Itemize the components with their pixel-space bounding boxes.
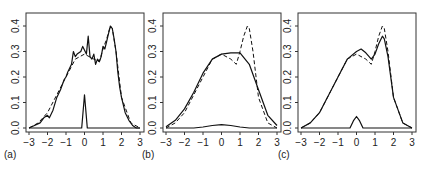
x-tick-label: 2 bbox=[391, 137, 397, 148]
panel-label-c: (c) bbox=[278, 149, 290, 160]
y-tick-label: 0.1 bbox=[147, 95, 158, 109]
y-tick-label: 0.4 bbox=[282, 19, 293, 33]
x-tick-label: −2 bbox=[42, 137, 54, 148]
panel-a: −3−2−101230.00.10.20.30.4 (a) bbox=[0, 0, 145, 172]
x-tick-label: −3 bbox=[23, 137, 35, 148]
x-tick-label: −2 bbox=[179, 137, 191, 148]
y-tick-label: 0.2 bbox=[147, 70, 158, 84]
panel-c: −3−2−101230.00.10.20.30.4 (c) bbox=[272, 0, 417, 172]
y-tick-label: 0.0 bbox=[282, 121, 293, 135]
plot-a: −3−2−101230.00.10.20.30.4 bbox=[0, 0, 145, 172]
series-component bbox=[301, 117, 412, 129]
x-tick-label: 2 bbox=[256, 137, 262, 148]
panel-b: −3−2−101230.00.10.20.30.4 (b) bbox=[137, 0, 282, 172]
x-tick-label: −3 bbox=[295, 137, 307, 148]
plot-b: −3−2−101230.00.10.20.30.4 bbox=[137, 0, 282, 172]
y-tick-label: 0.2 bbox=[10, 70, 21, 84]
x-tick-label: 3 bbox=[409, 137, 415, 148]
x-tick-label: −2 bbox=[314, 137, 326, 148]
y-tick-label: 0.1 bbox=[282, 95, 293, 109]
series-true-density bbox=[29, 26, 140, 128]
x-tick-label: 0 bbox=[82, 137, 88, 148]
panel-label-a: (a) bbox=[4, 149, 16, 160]
y-tick-label: 0.2 bbox=[282, 70, 293, 84]
y-tick-label: 0.1 bbox=[10, 95, 21, 109]
x-tick-label: −3 bbox=[160, 137, 172, 148]
x-tick-label: 1 bbox=[237, 137, 243, 148]
series-component bbox=[29, 95, 140, 128]
x-tick-label: 0 bbox=[219, 137, 225, 148]
x-tick-label: 1 bbox=[372, 137, 378, 148]
series-true-density bbox=[166, 26, 277, 128]
x-tick-label: −1 bbox=[332, 137, 344, 148]
y-tick-label: 0.0 bbox=[147, 121, 158, 135]
panel-label-b: (b) bbox=[142, 149, 154, 160]
plot-frame bbox=[298, 13, 416, 132]
y-tick-label: 0.3 bbox=[147, 44, 158, 58]
x-tick-label: 0 bbox=[354, 137, 360, 148]
y-tick-label: 0.3 bbox=[282, 44, 293, 58]
series-estimate bbox=[29, 26, 140, 128]
series-estimate bbox=[166, 53, 277, 127]
y-tick-label: 0.3 bbox=[10, 44, 21, 58]
x-tick-label: 2 bbox=[119, 137, 125, 148]
x-tick-label: 1 bbox=[100, 137, 106, 148]
series-estimate bbox=[301, 36, 412, 128]
series-component bbox=[166, 125, 277, 128]
x-tick-label: −1 bbox=[197, 137, 209, 148]
plot-c: −3−2−101230.00.10.20.30.4 bbox=[272, 0, 417, 172]
y-tick-label: 0.4 bbox=[147, 19, 158, 33]
x-tick-label: −1 bbox=[60, 137, 72, 148]
series-true-density bbox=[301, 26, 412, 128]
y-tick-label: 0.4 bbox=[10, 19, 21, 33]
y-tick-label: 0.0 bbox=[10, 121, 21, 135]
